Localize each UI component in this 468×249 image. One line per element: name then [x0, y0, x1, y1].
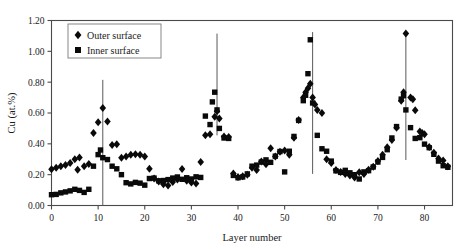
data-point-square	[445, 165, 450, 170]
data-point-square	[210, 99, 215, 104]
data-point-square	[235, 175, 240, 180]
data-point-square	[440, 163, 445, 168]
data-point-square	[259, 159, 264, 164]
data-point-square	[184, 175, 189, 180]
data-point-square	[287, 149, 292, 154]
data-point-square	[67, 188, 72, 193]
x-tick-label: 10	[93, 213, 103, 223]
data-point-square	[422, 141, 427, 146]
data-point-square	[412, 136, 417, 141]
data-point-square	[114, 166, 119, 171]
data-point-square	[303, 93, 308, 98]
data-point-square	[161, 178, 166, 183]
data-point-square	[282, 169, 287, 174]
data-point-diamond	[146, 165, 153, 173]
data-point-square	[105, 157, 110, 162]
data-point-diamond	[197, 158, 204, 166]
data-point-square	[81, 190, 86, 195]
data-point-square	[296, 118, 301, 123]
chart-legend: Outer surfaceInner surface	[68, 24, 161, 58]
data-point-square	[408, 125, 413, 130]
data-point-diamond	[53, 164, 60, 172]
data-point-square	[151, 175, 156, 180]
data-point-square	[109, 163, 114, 168]
data-point-square	[310, 100, 315, 105]
data-point-square	[142, 182, 147, 187]
data-point-square	[417, 135, 422, 140]
y-tick-label: 1.00	[28, 47, 45, 57]
data-point-diamond	[74, 166, 81, 174]
data-point-square	[245, 171, 250, 176]
data-point-square	[98, 147, 103, 152]
data-point-square	[147, 176, 152, 181]
chart-figure: 0.000.200.400.600.801.001.20010203040506…	[0, 0, 468, 249]
data-point-square	[133, 180, 138, 185]
data-point-square	[361, 169, 366, 174]
data-point-square	[128, 181, 133, 186]
x-tick-label: 60	[327, 213, 337, 223]
x-tick-label: 20	[140, 213, 150, 223]
data-point-square	[319, 146, 324, 151]
data-point-square	[49, 192, 54, 197]
data-point-square	[394, 124, 399, 129]
data-point-square	[385, 147, 390, 152]
data-point-diamond	[113, 140, 120, 148]
data-point-square	[338, 170, 343, 175]
data-point-diamond	[48, 165, 55, 173]
legend-item-label: Outer surface	[87, 30, 142, 41]
data-point-square	[254, 162, 259, 167]
data-point-square	[315, 133, 320, 138]
data-point-square	[53, 192, 58, 197]
data-point-diamond	[403, 30, 410, 38]
data-point-diamond	[104, 117, 111, 125]
data-point-square	[357, 176, 362, 181]
data-point-square	[347, 170, 352, 175]
data-point-square	[100, 155, 105, 160]
data-point-square	[380, 155, 385, 160]
data-point-square	[268, 160, 273, 165]
data-point-square	[175, 174, 180, 179]
data-point-square	[273, 153, 278, 158]
data-point-square	[137, 180, 142, 185]
x-tick-label: 0	[49, 213, 54, 223]
data-point-square	[226, 136, 231, 141]
data-point-square	[58, 190, 63, 195]
data-point-square	[207, 122, 212, 127]
data-point-square	[170, 175, 175, 180]
data-point-square	[240, 174, 245, 179]
data-point-square	[403, 107, 408, 112]
data-point-diamond	[267, 144, 274, 152]
data-point-square	[263, 157, 268, 162]
data-point-square	[63, 189, 68, 194]
data-point-square	[343, 168, 348, 173]
data-point-square	[156, 178, 161, 183]
data-point-square	[214, 107, 219, 112]
data-point-square	[436, 158, 441, 163]
data-point-square	[277, 149, 282, 154]
data-point-diamond	[95, 118, 102, 126]
data-point-diamond	[90, 129, 97, 137]
data-point-square	[123, 180, 128, 185]
data-point-square	[305, 71, 310, 76]
y-axis-title: Cu (at.%)	[6, 92, 18, 133]
data-point-diamond	[179, 165, 186, 173]
data-point-square	[431, 152, 436, 157]
data-point-square	[366, 168, 371, 173]
data-point-square	[308, 37, 313, 42]
y-tick-label: 0.40	[28, 139, 45, 149]
data-point-square	[291, 134, 296, 139]
data-point-square	[189, 176, 194, 181]
data-point-square	[301, 98, 306, 103]
x-tick-label: 80	[420, 213, 430, 223]
data-point-square	[249, 163, 254, 168]
data-point-square	[375, 159, 380, 164]
data-point-square	[231, 173, 236, 178]
series-square	[49, 37, 451, 197]
data-point-square	[86, 187, 91, 192]
data-point-square	[371, 164, 376, 169]
data-point-diamond	[100, 104, 107, 112]
x-tick-label: 30	[187, 213, 197, 223]
data-point-square	[165, 177, 170, 182]
x-tick-label: 70	[373, 213, 383, 223]
data-point-square	[72, 187, 77, 192]
